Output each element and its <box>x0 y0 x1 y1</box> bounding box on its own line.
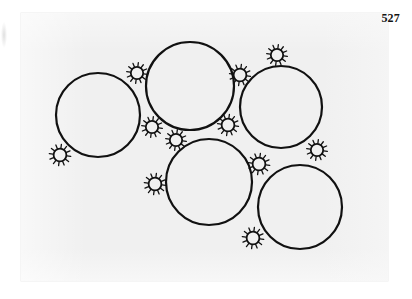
circle-packing-figure <box>0 0 412 299</box>
circle-top-middle <box>146 42 234 130</box>
sun-right-outer <box>307 140 328 161</box>
circle-left <box>56 73 140 157</box>
sun-center-left-gap <box>142 117 163 138</box>
circle-bottom-middle <box>166 139 252 225</box>
page-number: 527 <box>381 12 400 24</box>
sun-left-outer <box>49 144 70 165</box>
sun-lower-left-outer <box>144 173 165 194</box>
circle-bottom-right <box>258 165 342 249</box>
sun-top-right-crest <box>267 45 288 66</box>
circle-top-right <box>240 66 322 148</box>
sun-upper-left-gap <box>127 63 148 84</box>
page-canvas: 527 <box>0 0 412 299</box>
sun-bottom-outer <box>242 227 263 248</box>
